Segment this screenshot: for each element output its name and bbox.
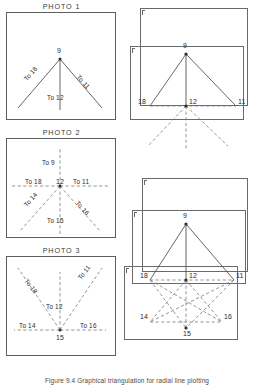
photo-3-ray-label-to14: To 14 <box>19 323 36 329</box>
photo-3-ray-label-to16: To 16 <box>80 323 97 329</box>
assembly-panel-lower: 9 18 12 11 14 15 16 <box>128 170 254 360</box>
assembly-upper-dot-9 <box>184 52 187 55</box>
photo-panel-2: PHOTO 2 To 9 12 To 18 To 11 To 14 To 15 … <box>4 128 119 240</box>
photo-1-rays <box>4 2 119 122</box>
photo-2-ray-label-to15: To 15 <box>47 218 64 224</box>
assembly-upper-lines <box>128 2 254 152</box>
assembly-lower-label-15: 15 <box>183 331 191 337</box>
photo-2-vertex-label: 12 <box>56 179 64 185</box>
photo-3-vertex-label: 15 <box>56 335 64 341</box>
photo-2-ray-label-to18: To 18 <box>25 179 42 185</box>
photo-2-ray-label-to11: To 11 <box>73 179 89 185</box>
photo-1-vertex-label: 9 <box>57 48 61 54</box>
photo-2-ray-label-to9: To 9 <box>42 160 55 166</box>
assembly-lower-label-18: 18 <box>140 273 148 279</box>
figure-caption: Figure 9.4 Graphical triangulation for r… <box>0 375 254 385</box>
photo-panel-1: PHOTO 1 9 To 18 To 12 To 11 <box>4 2 119 122</box>
photo-3-ray-label-to12: To 12 <box>46 304 63 310</box>
assembly-upper-label-9: 9 <box>183 43 187 49</box>
assembly-lower-dot-12 <box>184 278 187 281</box>
assembly-upper-label-12: 12 <box>189 99 197 105</box>
photo-1-ray-label-to12: To 12 <box>47 95 64 101</box>
assembly-lower-dot-9 <box>184 222 187 225</box>
photo-1-vertex-dot <box>59 58 62 61</box>
assembly-lower-label-14: 14 <box>140 314 148 320</box>
assembly-panel-upper: 9 18 12 11 <box>128 2 254 152</box>
assembly-lower-label-16: 16 <box>224 314 232 320</box>
photo-3-vertex-dot <box>59 329 62 332</box>
assembly-lower-label-11: 11 <box>236 273 244 279</box>
assembly-upper-label-11: 11 <box>238 99 246 105</box>
assembly-upper-dot-12 <box>184 104 187 107</box>
assembly-lower-label-9: 9 <box>183 213 187 219</box>
photo-panel-3: PHOTO 3 To 18 To 12 To 11 To 14 To 16 15 <box>4 246 119 358</box>
assembly-upper-label-18: 18 <box>138 99 146 105</box>
assembly-lower-label-12: 12 <box>189 273 197 279</box>
